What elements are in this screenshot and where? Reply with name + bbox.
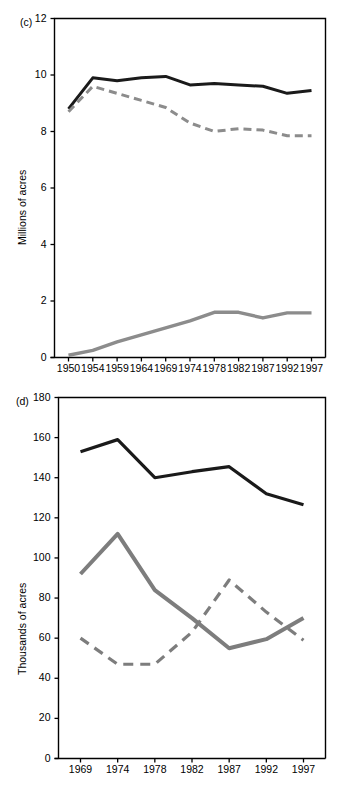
- panel-c-chart: (c) Millions of acres 024681012195019541…: [0, 0, 342, 390]
- y-axis-tick-label: 10: [5, 68, 47, 80]
- y-axis-tick-label: 60: [9, 631, 51, 643]
- x-axis-tick-label: 1982: [173, 763, 211, 775]
- series-line-total: [81, 440, 304, 505]
- y-axis-tick-label: 100: [9, 551, 51, 563]
- y-axis-tick-label: 140: [9, 471, 51, 483]
- y-axis-tick-label: 8: [5, 125, 47, 137]
- y-axis-tick-label: 0: [9, 752, 51, 764]
- x-axis-tick-label: 1974: [99, 763, 137, 775]
- series-line-total: [69, 76, 312, 108]
- y-axis-tick-label: 20: [9, 711, 51, 723]
- y-axis-tick-label: 0: [5, 351, 47, 363]
- x-axis-tick-label: 1969: [62, 763, 100, 775]
- y-axis-tick-label: 6: [5, 181, 47, 193]
- series-line-solid-grey: [69, 312, 312, 355]
- x-axis-tick-label: 1987: [210, 763, 248, 775]
- y-axis-tick-label: 180: [9, 391, 51, 403]
- series-line-dashed-grey: [69, 86, 312, 135]
- y-axis-tick-label: 120: [9, 511, 51, 523]
- y-axis-tick-label: 40: [9, 671, 51, 683]
- y-axis-tick-label: 12: [5, 12, 47, 24]
- x-axis-tick-label: 1992: [247, 763, 285, 775]
- y-axis-tick-label: 160: [9, 431, 51, 443]
- x-axis-tick-label: 1978: [136, 763, 174, 775]
- x-axis-tick-label: 1997: [293, 362, 331, 374]
- y-axis-tick-label: 4: [5, 238, 47, 250]
- panel-d-plot-area: [0, 390, 342, 804]
- y-axis-tick-label: 80: [9, 591, 51, 603]
- panel-d-chart: (d) Thousands of acres 02040608010012014…: [0, 390, 342, 804]
- series-line-solid-grey: [81, 534, 304, 648]
- x-axis-tick-label: 1997: [285, 763, 323, 775]
- panel-c-plot-area: [0, 0, 342, 390]
- y-axis-tick-label: 2: [5, 294, 47, 306]
- series-line-dashed-grey: [81, 580, 304, 664]
